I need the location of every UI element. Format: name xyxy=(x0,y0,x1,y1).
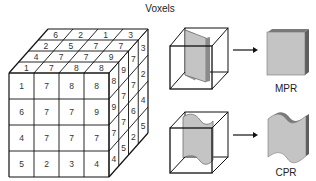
top-voxel: 4 xyxy=(34,52,39,62)
front-voxel: 5 xyxy=(19,159,24,169)
voxel-cube: 1788677947775234621325774779178889739772… xyxy=(9,29,148,177)
front-voxel: 4 xyxy=(19,133,24,143)
front-voxel: 7 xyxy=(94,133,99,143)
top-voxel: 1 xyxy=(103,30,108,40)
front-voxel: 7 xyxy=(69,107,74,117)
right-voxel: 8 xyxy=(112,76,117,86)
right-voxel: 4 xyxy=(112,154,117,164)
front-voxel: 7 xyxy=(44,133,49,143)
top-voxel: 9 xyxy=(109,52,114,62)
front-voxel: 7 xyxy=(44,107,49,117)
front-voxel: 7 xyxy=(44,81,49,91)
top-voxel: 7 xyxy=(94,41,99,51)
cpr-arrow-icon xyxy=(233,132,258,138)
mpr-source-cube xyxy=(170,28,228,89)
cpr-source-cube xyxy=(170,112,228,173)
right-voxel: 7 xyxy=(131,54,136,64)
right-voxel: 2 xyxy=(131,132,136,142)
right-voxel: 9 xyxy=(121,65,126,75)
right-voxel: 4 xyxy=(141,95,146,105)
front-voxel: 7 xyxy=(69,133,74,143)
right-voxel: 7 xyxy=(112,128,117,138)
top-voxel: 1 xyxy=(24,63,29,73)
right-voxel: 3 xyxy=(141,43,146,53)
right-voxel: 7 xyxy=(121,91,126,101)
right-voxel: 6 xyxy=(131,106,136,116)
front-voxel: 1 xyxy=(19,81,24,91)
top-voxel: 8 xyxy=(99,63,104,73)
voxel-diagram: Voxels 178867794777523462132577477917888… xyxy=(0,0,316,181)
top-voxel: 3 xyxy=(128,30,133,40)
front-voxel: 2 xyxy=(44,159,49,169)
mpr-label: MPR xyxy=(275,83,297,94)
right-voxel: 9 xyxy=(112,102,117,112)
mpr-result-slice xyxy=(267,29,309,75)
front-voxel: 4 xyxy=(94,159,99,169)
top-voxel: 7 xyxy=(49,63,54,73)
right-voxel: 7 xyxy=(121,117,126,127)
top-voxel: 6 xyxy=(53,30,58,40)
cpr-label: CPR xyxy=(275,167,296,178)
mpr-arrow-icon xyxy=(233,47,258,53)
top-voxel: 7 xyxy=(59,52,64,62)
top-voxel: 2 xyxy=(44,41,49,51)
front-voxel: 9 xyxy=(94,107,99,117)
top-voxel: 7 xyxy=(84,52,89,62)
top-voxel: 2 xyxy=(78,30,83,40)
right-voxel: 2 xyxy=(141,69,146,79)
cpr-result-slice xyxy=(268,112,309,163)
front-voxel: 3 xyxy=(69,159,74,169)
diagram-title: Voxels xyxy=(145,3,174,14)
top-voxel: 7 xyxy=(119,41,124,51)
top-voxel: 5 xyxy=(69,41,74,51)
top-voxel: 8 xyxy=(74,63,79,73)
front-voxel: 6 xyxy=(19,107,24,117)
front-voxel: 8 xyxy=(69,81,74,91)
right-voxel: 5 xyxy=(141,121,146,131)
right-voxel: 5 xyxy=(121,143,126,153)
front-voxel: 8 xyxy=(94,81,99,91)
right-voxel: 7 xyxy=(131,80,136,90)
